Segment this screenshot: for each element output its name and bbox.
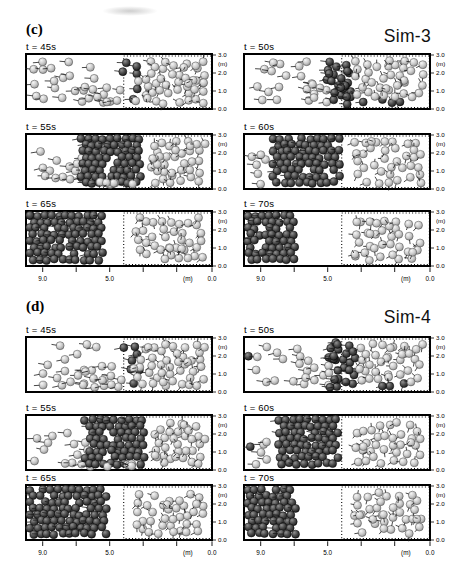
time-label: t = 70s xyxy=(243,471,461,484)
y-axis-unit: (m) xyxy=(218,343,227,350)
y-axis-unit: (m) xyxy=(436,343,445,350)
x-tick-label: 5.0 xyxy=(105,549,114,556)
time-label: t = 65s xyxy=(25,197,243,210)
time-label: t = 60s xyxy=(243,120,461,133)
y-tick-label: 2.0 xyxy=(218,352,227,359)
y-axis: 3.02.01.00.0(m) xyxy=(431,484,446,543)
x-tick-label: 0.0 xyxy=(208,275,217,282)
x-axis: 9.05.00.0(m) xyxy=(38,267,217,282)
y-tick-label: 3.0 xyxy=(436,133,445,138)
y-tick-label: 2.0 xyxy=(436,149,445,156)
y-tick-label: 0.0 xyxy=(436,388,445,394)
y-axis-unit: (m) xyxy=(436,140,445,147)
x-tick-label: 0.0 xyxy=(426,275,435,282)
y-axis: 3.02.01.00.0(m) xyxy=(431,414,446,472)
y-tick-label: 0.0 xyxy=(436,105,445,111)
subplot-cell: t = 70s 3.02.01.00.0(m)9.05.00.0(m) xyxy=(243,471,461,566)
simulation-plot: 3.02.01.00.0(m) xyxy=(25,53,243,111)
y-tick-label: 3.0 xyxy=(436,484,445,489)
simulation-figure: (c) Sim-3 (d) Sim-4 t = 45s 3.02.01.00.0… xyxy=(0,0,466,574)
y-axis-unit: (m) xyxy=(436,491,445,498)
panel-d-label: (d) xyxy=(26,298,44,315)
y-tick-label: 1.0 xyxy=(436,87,445,94)
y-tick-label: 2.0 xyxy=(218,149,227,156)
y-axis: 3.02.01.00.0(m) xyxy=(213,414,228,472)
y-axis-unit: (m) xyxy=(436,60,445,67)
y-axis-unit: (m) xyxy=(436,217,445,224)
subplot-cell: t = 65s 3.02.01.00.0(m)9.05.00.0(m) xyxy=(25,471,243,566)
subplot-cell: t = 45s 3.02.01.00.0(m) xyxy=(25,323,243,394)
y-tick-label: 1.0 xyxy=(436,244,445,251)
x-tick-label: 9.0 xyxy=(256,549,265,556)
simulation-plot: 3.02.01.00.0(m)9.05.00.0(m) xyxy=(25,210,243,292)
y-tick-label: 3.0 xyxy=(218,53,227,58)
y-axis-unit: (m) xyxy=(218,491,227,498)
y-axis: 3.02.01.00.0(m) xyxy=(431,133,446,191)
x-axis-unit: (m) xyxy=(401,275,411,283)
y-axis: 3.02.01.00.0(m) xyxy=(431,336,446,394)
y-tick-label: 0.0 xyxy=(218,185,227,191)
y-axis-unit: (m) xyxy=(218,217,227,224)
simulation-plot: 3.02.01.00.0(m)9.05.00.0(m) xyxy=(25,484,243,566)
simulation-plot: 3.02.01.00.0(m)9.05.00.0(m) xyxy=(243,484,461,566)
y-tick-label: 1.0 xyxy=(436,448,445,455)
x-axis: 9.05.00.0(m) xyxy=(38,541,217,556)
x-axis-unit: (m) xyxy=(183,275,193,283)
time-label: t = 50s xyxy=(243,323,461,336)
simulation-plot: 3.02.01.00.0(m) xyxy=(25,133,243,191)
simulation-plot: 3.02.01.00.0(m)9.05.00.0(m) xyxy=(243,210,461,292)
y-tick-label: 2.0 xyxy=(436,69,445,76)
time-label: t = 45s xyxy=(25,40,243,53)
x-tick-label: 0.0 xyxy=(208,549,217,556)
y-tick-label: 1.0 xyxy=(218,87,227,94)
y-tick-label: 2.0 xyxy=(218,226,227,233)
subplot-cell: t = 70s 3.02.01.00.0(m)9.05.00.0(m) xyxy=(243,197,461,292)
time-label: t = 45s xyxy=(25,323,243,336)
y-tick-label: 2.0 xyxy=(436,352,445,359)
y-tick-label: 2.0 xyxy=(218,500,227,507)
y-tick-label: 2.0 xyxy=(218,69,227,76)
time-label: t = 60s xyxy=(243,401,461,414)
subplot-cell: t = 55s 3.02.01.00.0(m) xyxy=(25,120,243,191)
y-tick-label: 2.0 xyxy=(436,226,445,233)
y-tick-label: 0.0 xyxy=(436,536,445,543)
y-tick-label: 3.0 xyxy=(218,210,227,215)
subplot-cell: t = 50s 3.02.01.00.0(m) xyxy=(243,323,461,394)
x-tick-label: 9.0 xyxy=(38,275,47,282)
y-axis-unit: (m) xyxy=(218,421,227,428)
y-tick-label: 0.0 xyxy=(218,388,227,394)
y-axis: 3.02.01.00.0(m) xyxy=(213,484,228,543)
subplot-cell: t = 60s 3.02.01.00.0(m) xyxy=(243,120,461,191)
y-axis: 3.02.01.00.0(m) xyxy=(213,53,228,111)
simulation-plot: 3.02.01.00.0(m) xyxy=(243,53,461,111)
y-tick-label: 1.0 xyxy=(218,518,227,525)
x-axis: 9.05.00.0(m) xyxy=(256,267,435,282)
simulation-plot: 3.02.01.00.0(m) xyxy=(25,414,243,472)
x-tick-label: 5.0 xyxy=(105,275,114,282)
y-axis-unit: (m) xyxy=(218,140,227,147)
y-axis: 3.02.01.00.0(m) xyxy=(213,133,228,191)
y-tick-label: 0.0 xyxy=(218,105,227,111)
y-tick-label: 1.0 xyxy=(436,370,445,377)
y-axis: 3.02.01.00.0(m) xyxy=(213,210,228,269)
simulation-plot: 3.02.01.00.0(m) xyxy=(243,133,461,191)
y-tick-label: 0.0 xyxy=(436,262,445,269)
y-axis: 3.02.01.00.0(m) xyxy=(213,336,228,394)
y-tick-label: 0.0 xyxy=(218,262,227,269)
panel-c-label: (c) xyxy=(26,21,43,38)
x-tick-label: 5.0 xyxy=(323,275,332,282)
subplot-cell: t = 60s 3.02.01.00.0(m) xyxy=(243,401,461,472)
y-axis: 3.02.01.00.0(m) xyxy=(431,53,446,111)
subplot-cell: t = 65s 3.02.01.00.0(m)9.05.00.0(m) xyxy=(25,197,243,292)
x-axis-unit: (m) xyxy=(183,549,193,557)
y-tick-label: 1.0 xyxy=(436,518,445,525)
y-tick-label: 1.0 xyxy=(218,167,227,174)
simulation-plot: 3.02.01.00.0(m) xyxy=(243,336,461,394)
time-label: t = 50s xyxy=(243,40,461,53)
subplot-cell: t = 55s 3.02.01.00.0(m) xyxy=(25,401,243,472)
y-tick-label: 1.0 xyxy=(218,244,227,251)
y-axis-unit: (m) xyxy=(436,421,445,428)
x-tick-label: 5.0 xyxy=(323,549,332,556)
y-tick-label: 1.0 xyxy=(436,167,445,174)
time-label: t = 55s xyxy=(25,401,243,414)
